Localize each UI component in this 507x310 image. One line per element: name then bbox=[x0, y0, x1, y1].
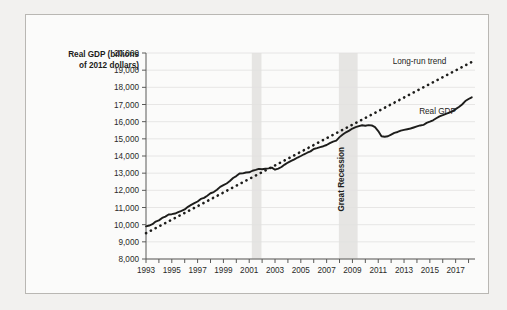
real-gdp-chart: 8,0009,00010,00011,00012,00013,00014,000… bbox=[26, 15, 488, 293]
y-tick-label: 15,000 bbox=[114, 135, 139, 144]
chart-annotation: Long-run trend bbox=[393, 57, 447, 66]
series-line bbox=[146, 97, 472, 226]
x-tick-label: 1995 bbox=[163, 266, 182, 275]
x-tick-label: 2005 bbox=[292, 266, 311, 275]
y-tick-label: 11,000 bbox=[115, 204, 140, 213]
y-tick-label: 8,000 bbox=[119, 255, 140, 264]
x-tick-label: 1993 bbox=[137, 266, 156, 275]
x-tick-label: 2017 bbox=[447, 266, 466, 275]
x-tick-label: 2015 bbox=[421, 266, 440, 275]
x-tick-label: 2009 bbox=[343, 266, 362, 275]
x-tick-label: 2011 bbox=[369, 266, 387, 275]
y-axis-ticks bbox=[142, 53, 146, 259]
x-tick-label: 2003 bbox=[266, 266, 285, 275]
x-axis-tick-labels: 1993199519971999200120032005200720092011… bbox=[137, 266, 465, 275]
y-tick-label: 16,000 bbox=[114, 118, 139, 127]
y-tick-label: 17,000 bbox=[114, 101, 139, 110]
x-tick-label: 2013 bbox=[395, 266, 414, 275]
y-axis-title-line2: of 2012 dollars) bbox=[79, 61, 139, 70]
chart-annotation: Real GDP bbox=[419, 107, 456, 116]
x-tick-label: 1997 bbox=[188, 266, 207, 275]
y-tick-label: 12,000 bbox=[114, 186, 139, 195]
y-tick-label: 14,000 bbox=[114, 152, 139, 161]
chart-card: 8,0009,00010,00011,00012,00013,00014,000… bbox=[25, 14, 489, 294]
x-tick-label: 2001 bbox=[240, 266, 259, 275]
x-axis-ticks bbox=[146, 259, 469, 263]
y-tick-label: 18,000 bbox=[114, 83, 139, 92]
x-tick-label: 2007 bbox=[318, 266, 337, 275]
y-tick-label: 13,000 bbox=[114, 169, 139, 178]
y-tick-label: 9,000 bbox=[119, 238, 140, 247]
gridlines bbox=[146, 53, 475, 259]
y-axis-tick-labels: 8,0009,00010,00011,00012,00013,00014,000… bbox=[114, 49, 139, 264]
x-tick-label: 1999 bbox=[214, 266, 233, 275]
y-axis-title-line1: Real GDP (billions bbox=[68, 50, 139, 59]
y-tick-label: 10,000 bbox=[114, 221, 139, 230]
chart-annotation: Great Recession bbox=[337, 147, 346, 212]
page-root: 8,0009,00010,00011,00012,00013,00014,000… bbox=[0, 0, 507, 310]
